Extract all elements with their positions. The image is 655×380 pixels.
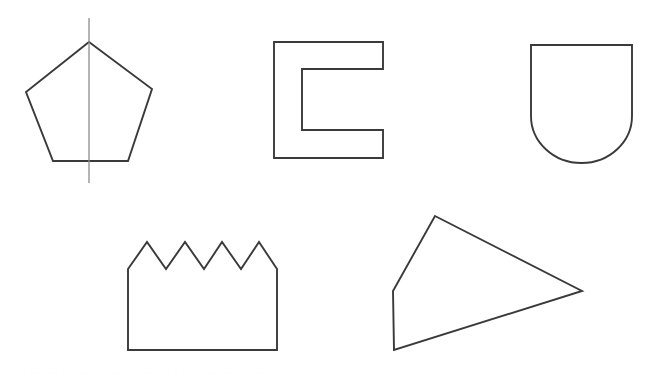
- worksheet-page: · · · · ·· · ·· · ·· ·· ·· · ·· ·· · ·· …: [0, 0, 655, 380]
- shield-shape[interactable]: [531, 45, 632, 163]
- shape-group-c-shape[interactable]: [274, 42, 383, 158]
- shape-group-shield[interactable]: [531, 45, 632, 163]
- quadrilateral-shape[interactable]: [393, 216, 582, 350]
- c-shape-shape[interactable]: [274, 42, 383, 158]
- crown-shape[interactable]: [128, 242, 277, 350]
- shape-group-quadrilateral[interactable]: [393, 216, 582, 350]
- shape-group-pentagon[interactable]: [26, 18, 152, 183]
- shape-group-crown[interactable]: [128, 242, 277, 350]
- shapes-canvas: [0, 0, 655, 380]
